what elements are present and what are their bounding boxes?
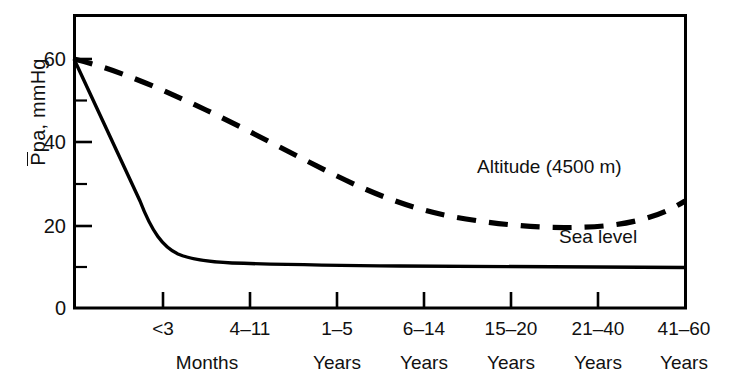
x-tick-label-6-14: 6–14 [403,318,445,340]
annotation-altitude-4500m: Altitude (4500 m) [477,156,622,178]
x-tick-label-1-5: 1–5 [321,318,353,340]
annotation-sea-level: Sea level [559,226,637,248]
x-unit-label-years-15-20: Years [487,352,535,374]
x-tick-label-4-11: 4–11 [230,318,271,340]
chart-figure: Ppa, mmHg 60 40 20 0 [0,0,729,387]
x-tick-label-21-40: 21–40 [572,318,625,340]
x-tick-label-lt3: <3 [152,318,174,340]
x-tick-label-41-60: 41–60 [658,318,711,340]
x-unit-label-years-6-14: Years [400,352,448,374]
x-ticks [163,292,598,308]
x-unit-label-years-41-60: Years [660,352,708,374]
x-tick-label-15-20: 15–20 [485,318,538,340]
x-unit-label-years-1-5: Years [313,352,361,374]
x-unit-label-months: Months [176,352,238,374]
series-altitude-4500m-line [74,59,685,228]
x-unit-label-years-21-40: Years [574,352,622,374]
y-major-ticks [74,59,92,226]
